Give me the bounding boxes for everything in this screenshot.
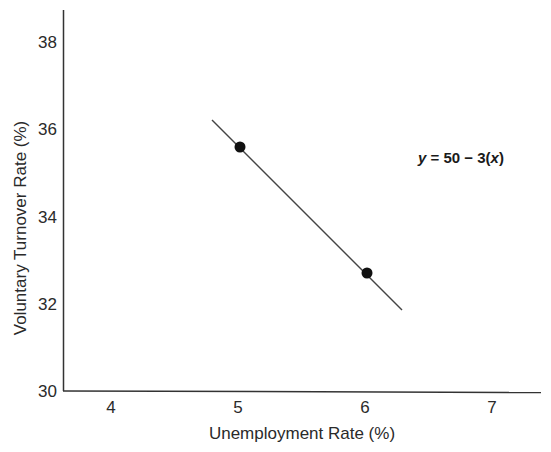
y-tick-label: 36 — [38, 120, 57, 139]
equation-annotation: y = 50 − 3(x) — [417, 149, 504, 166]
x-tick-label: 7 — [487, 398, 496, 417]
x-tick-label: 5 — [233, 398, 242, 417]
x-tick-label: 4 — [106, 398, 115, 417]
y-tick-label: 34 — [38, 208, 57, 227]
x-tick-label: 6 — [360, 398, 369, 417]
x-axis-title: Unemployment Rate (%) — [209, 424, 395, 443]
data-point — [235, 142, 246, 153]
data-point — [362, 268, 373, 279]
y-tick-label: 38 — [38, 33, 57, 52]
y-axis-title: Voluntary Turnover Rate (%) — [11, 121, 30, 335]
chart: 38 36 34 32 30 4 5 6 7 Unemployment Rate… — [0, 0, 551, 452]
x-axis — [63, 391, 541, 393]
y-tick-label: 32 — [38, 295, 57, 314]
y-tick-label: 30 — [38, 382, 57, 401]
